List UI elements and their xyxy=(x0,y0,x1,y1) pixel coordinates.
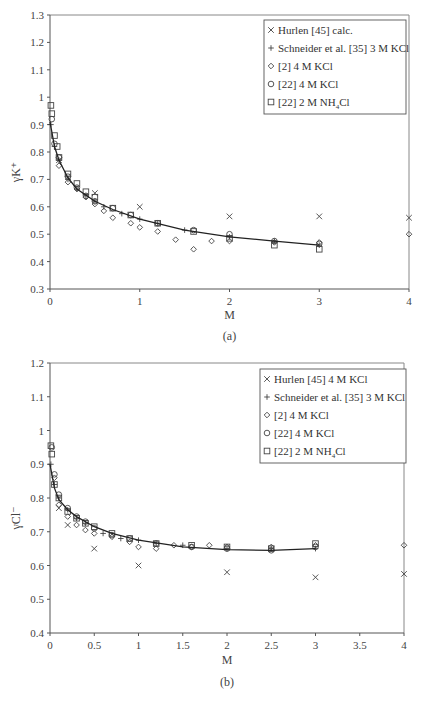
x-tick-label: 4 xyxy=(401,639,407,651)
y-tick-label: 0.6 xyxy=(30,201,44,213)
fit-curve xyxy=(50,122,319,245)
series-x xyxy=(56,505,407,580)
x-tick-label: 3.5 xyxy=(353,639,367,651)
diamond-marker xyxy=(173,237,179,243)
legend-item-label: Schneider et al. [35] 3 M KCl xyxy=(274,391,405,403)
y-tick-label: 0.8 xyxy=(30,492,44,504)
legend-item-label: [2] 4 M KCl xyxy=(274,409,329,421)
x-axis-label: M xyxy=(224,308,235,322)
diamond-marker xyxy=(83,527,89,533)
series-diamond xyxy=(52,475,407,551)
y-tick-label: 0.6 xyxy=(30,560,44,572)
y-tick-label: 0.9 xyxy=(30,119,44,131)
series-+ xyxy=(48,461,318,551)
fit-curve xyxy=(50,464,316,550)
x-tick-label: 1 xyxy=(137,295,143,307)
square-marker xyxy=(48,103,54,109)
chart-panel-b: 0.40.50.60.70.80.911.11.200.511.522.533.… xyxy=(9,357,407,689)
series-x xyxy=(56,157,412,220)
diamond-marker xyxy=(155,229,161,235)
y-tick-label: 0.4 xyxy=(30,256,44,268)
legend: Hurlen [45] calc.Schneider et al. [35] 3… xyxy=(264,20,409,114)
y-tick-label: 1 xyxy=(39,91,45,103)
diamond-marker xyxy=(136,544,142,550)
y-tick-label: 1.2 xyxy=(30,357,44,369)
legend: Hurlen [45] 4 M KClSchneider et al. [35]… xyxy=(260,369,406,463)
series-+ xyxy=(48,122,322,248)
x-tick-label: 4 xyxy=(406,295,412,307)
legend-item-label: Schneider et al. [35] 3 M KCl xyxy=(278,42,409,54)
chart-panel-a: 0.30.40.50.60.70.80.911.11.21.301234MγK⁺… xyxy=(9,9,412,343)
y-tick-label: 0.7 xyxy=(30,526,44,538)
x-tick-label: 1.5 xyxy=(176,639,190,651)
y-tick-label: 0.8 xyxy=(30,146,44,158)
x-tick-label: 3 xyxy=(313,639,319,651)
y-tick-label: 1.1 xyxy=(30,391,44,403)
legend-item-label: Hurlen [45] calc. xyxy=(278,24,353,36)
y-tick-label: 1.2 xyxy=(30,36,44,48)
x-tick-label: 3 xyxy=(317,295,323,307)
diamond-marker xyxy=(209,238,215,244)
y-tick-label: 0.9 xyxy=(30,458,44,470)
x-tick-label: 2 xyxy=(227,295,233,307)
legend-item-label: [22] 4 M KCl xyxy=(274,427,334,439)
x-tick-label: 2 xyxy=(224,639,230,651)
x-axis-label: M xyxy=(222,653,233,667)
legend-item-label: [2] 4 M KCl xyxy=(278,60,333,72)
y-tick-label: 1 xyxy=(39,425,45,437)
diamond-marker xyxy=(128,220,134,226)
y-axis-label: γK⁺ xyxy=(9,162,23,183)
y-tick-label: 0.7 xyxy=(30,173,44,185)
x-tick-label: 1 xyxy=(136,639,142,651)
diamond-marker xyxy=(137,225,143,231)
x-tick-label: 0 xyxy=(47,639,53,651)
y-tick-label: 0.3 xyxy=(30,283,44,295)
y-axis-label: γCl⁻ xyxy=(9,507,23,531)
diamond-marker xyxy=(74,522,80,528)
panel-label: (b) xyxy=(220,675,234,689)
x-tick-label: 0 xyxy=(47,295,53,307)
x-tick-label: 2.5 xyxy=(264,639,278,651)
y-tick-label: 0.4 xyxy=(30,627,44,639)
diamond-marker xyxy=(191,246,197,252)
legend-item-label: Hurlen [45] 4 M KCl xyxy=(274,373,368,385)
diamond-marker xyxy=(207,542,213,548)
legend-item-label: [22] 4 M KCl xyxy=(278,78,338,90)
y-tick-label: 1.3 xyxy=(30,9,44,21)
series-circle xyxy=(49,116,322,246)
x-tick-label: 0.5 xyxy=(87,639,101,651)
y-tick-label: 0.5 xyxy=(30,228,44,240)
y-tick-label: 1.1 xyxy=(30,64,44,76)
y-tick-label: 0.5 xyxy=(30,593,44,605)
panel-label: (a) xyxy=(223,329,236,343)
figure: 0.30.40.50.60.70.80.911.11.21.301234MγK⁺… xyxy=(0,0,422,703)
diamond-marker xyxy=(110,215,116,221)
